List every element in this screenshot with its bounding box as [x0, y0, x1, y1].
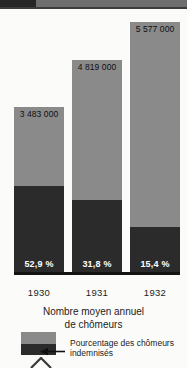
bar-value-label-1932: 5 577 000: [130, 24, 180, 34]
header-dark-block: [0, 0, 36, 7]
bar-value-label-1930: 3 483 000: [14, 109, 64, 119]
x-tick-1932: 1932: [130, 287, 180, 298]
chart-caption-line-1: Nombre moyen annuel: [0, 305, 187, 318]
legend-label-line-2: indemnisés: [70, 348, 187, 358]
bar-1932: 5 577 000 15,4 %: [130, 22, 180, 272]
bar-value-label-1931: 4 819 000: [72, 62, 122, 72]
bar-percent-label-1930: 52,9 %: [14, 259, 64, 269]
cropped-header-band: [0, 0, 187, 9]
bar-percent-label-1931: 31,8 %: [72, 259, 122, 269]
bar-1931: 4 819 000 31,8 %: [72, 60, 122, 272]
legend-label-line-1: Pourcentage des chômeurs: [70, 338, 187, 348]
legend-label: Pourcentage des chômeurs indemnisés: [70, 338, 187, 358]
x-axis-line: [14, 272, 180, 275]
bar-1930: 3 483 000 52,9 %: [14, 107, 64, 272]
plot-area: 3 483 000 52,9 % 4 819 000 31,8 % 5 577 …: [0, 9, 187, 275]
chart-legend: Pourcentage des chômeurs indemnisés: [0, 330, 187, 360]
chevron-up-icon: [30, 357, 52, 368]
bar-percent-label-1932: 15,4 %: [130, 259, 180, 269]
x-axis-tick-labels: 1930 1931 1932: [0, 287, 187, 301]
x-tick-1931: 1931: [72, 287, 122, 298]
x-tick-1930: 1930: [14, 287, 64, 298]
unemployment-bar-chart-figure: 3 483 000 52,9 % 4 819 000 31,8 % 5 577 …: [0, 0, 187, 368]
chart-caption: Nombre moyen annuel de chômeurs: [0, 305, 187, 331]
legend-arrow-icon: [38, 347, 66, 356]
